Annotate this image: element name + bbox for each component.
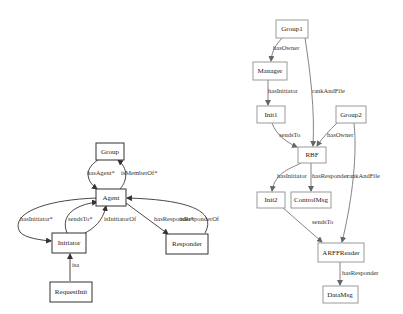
node-requestinit[interactable]: RequestInit bbox=[50, 282, 92, 302]
svg-text:hasOwner: hasOwner bbox=[327, 131, 354, 138]
svg-text:sendsTo*: sendsTo* bbox=[68, 215, 92, 222]
instance-nodes: Group1 Manager Init1 Group2 RBF Init2 Co… bbox=[253, 20, 366, 303]
edge-isa: isa bbox=[70, 254, 79, 281]
svg-text:hasAgent*: hasAgent* bbox=[87, 169, 115, 176]
svg-text:Responder: Responder bbox=[172, 240, 203, 248]
svg-text:Agent: Agent bbox=[102, 194, 119, 202]
svg-text:hasResponder: hasResponder bbox=[342, 269, 379, 276]
svg-text:Group2: Group2 bbox=[340, 111, 362, 119]
node-group[interactable]: Group bbox=[96, 143, 124, 160]
node-init1[interactable]: Init1 bbox=[257, 106, 285, 123]
svg-text:Manager: Manager bbox=[258, 67, 284, 75]
svg-text:Group: Group bbox=[101, 148, 119, 156]
svg-text:hasResponder: hasResponder bbox=[312, 172, 349, 179]
svg-text:RBF: RBF bbox=[305, 151, 318, 159]
node-rbf[interactable]: RBF bbox=[298, 147, 326, 163]
edge-group1-rankAndFile: rankAndFile bbox=[305, 38, 345, 146]
schema-nodes: Group Agent Initiator Responder RequestI… bbox=[50, 143, 208, 302]
node-group1[interactable]: Group1 bbox=[276, 20, 308, 38]
node-arffreader[interactable]: ARFFReader bbox=[318, 243, 364, 262]
node-controlmsg[interactable]: ControlMsg bbox=[291, 192, 331, 208]
edge-group2-hasOwner: hasOwner bbox=[317, 123, 354, 146]
svg-text:ControlMsg: ControlMsg bbox=[294, 196, 328, 204]
node-group2[interactable]: Group2 bbox=[336, 106, 366, 123]
edge-hasAgent: hasAgent* bbox=[87, 160, 115, 189]
edge-group1-hasOwner: hasOwner bbox=[271, 38, 300, 61]
node-datamsg[interactable]: DataMsg bbox=[323, 286, 358, 303]
svg-text:hasInitiator: hasInitiator bbox=[277, 172, 307, 179]
svg-text:Init2: Init2 bbox=[264, 196, 278, 204]
node-init2[interactable]: Init2 bbox=[257, 192, 285, 208]
svg-text:Init1: Init1 bbox=[264, 111, 278, 119]
node-manager[interactable]: Manager bbox=[253, 62, 287, 80]
node-agent[interactable]: Agent bbox=[96, 189, 126, 206]
svg-text:isa: isa bbox=[72, 261, 79, 268]
svg-text:hasInitiator*: hasInitiator* bbox=[20, 215, 53, 222]
svg-text:sendsTo: sendsTo bbox=[279, 131, 300, 138]
node-responder[interactable]: Responder bbox=[166, 234, 208, 254]
edge-init1-sendsTo: sendsTo bbox=[272, 123, 300, 147]
svg-text:hasOwner: hasOwner bbox=[273, 44, 300, 51]
svg-text:rankAndFile: rankAndFile bbox=[312, 87, 345, 94]
edge-rbf-hasInitiator: hasInitiator bbox=[272, 163, 307, 191]
svg-text:isInitiatorOf: isInitiatorOf bbox=[104, 215, 137, 222]
svg-text:Group1: Group1 bbox=[281, 25, 303, 33]
svg-text:rankAndFile: rankAndFile bbox=[347, 172, 380, 179]
svg-text:Initiator: Initiator bbox=[58, 239, 81, 247]
node-initiator[interactable]: Initiator bbox=[52, 233, 86, 253]
svg-text:isMemberOf*: isMemberOf* bbox=[121, 169, 157, 176]
svg-text:RequestInit: RequestInit bbox=[55, 288, 87, 296]
edge-isMemberOf: isMemberOf* bbox=[118, 160, 157, 189]
edge-manager-hasInitiator: hasInitiator bbox=[268, 80, 298, 105]
schema-edges: hasAgent* isMemberOf* hasInitiator* send… bbox=[18, 160, 220, 281]
edge-rbf-hasResponder: hasResponder bbox=[311, 163, 349, 191]
edge-arff-hasResponder: hasResponder bbox=[340, 262, 379, 285]
svg-text:isResponderOf: isResponderOf bbox=[180, 215, 220, 222]
svg-text:DataMsg: DataMsg bbox=[327, 291, 353, 299]
edge-init2-sendsTo: sendsTo bbox=[282, 207, 333, 242]
svg-text:sendsTo: sendsTo bbox=[312, 218, 333, 225]
edge-group2-rankAndFile: rankAndFile bbox=[342, 123, 380, 242]
svg-text:hasInitiator: hasInitiator bbox=[268, 87, 298, 94]
edge-isInitiatorOf: isInitiatorOf bbox=[85, 206, 137, 233]
svg-text:ARFFReader: ARFFReader bbox=[322, 249, 360, 257]
diagram-canvas: hasAgent* isMemberOf* hasInitiator* send… bbox=[0, 0, 403, 314]
